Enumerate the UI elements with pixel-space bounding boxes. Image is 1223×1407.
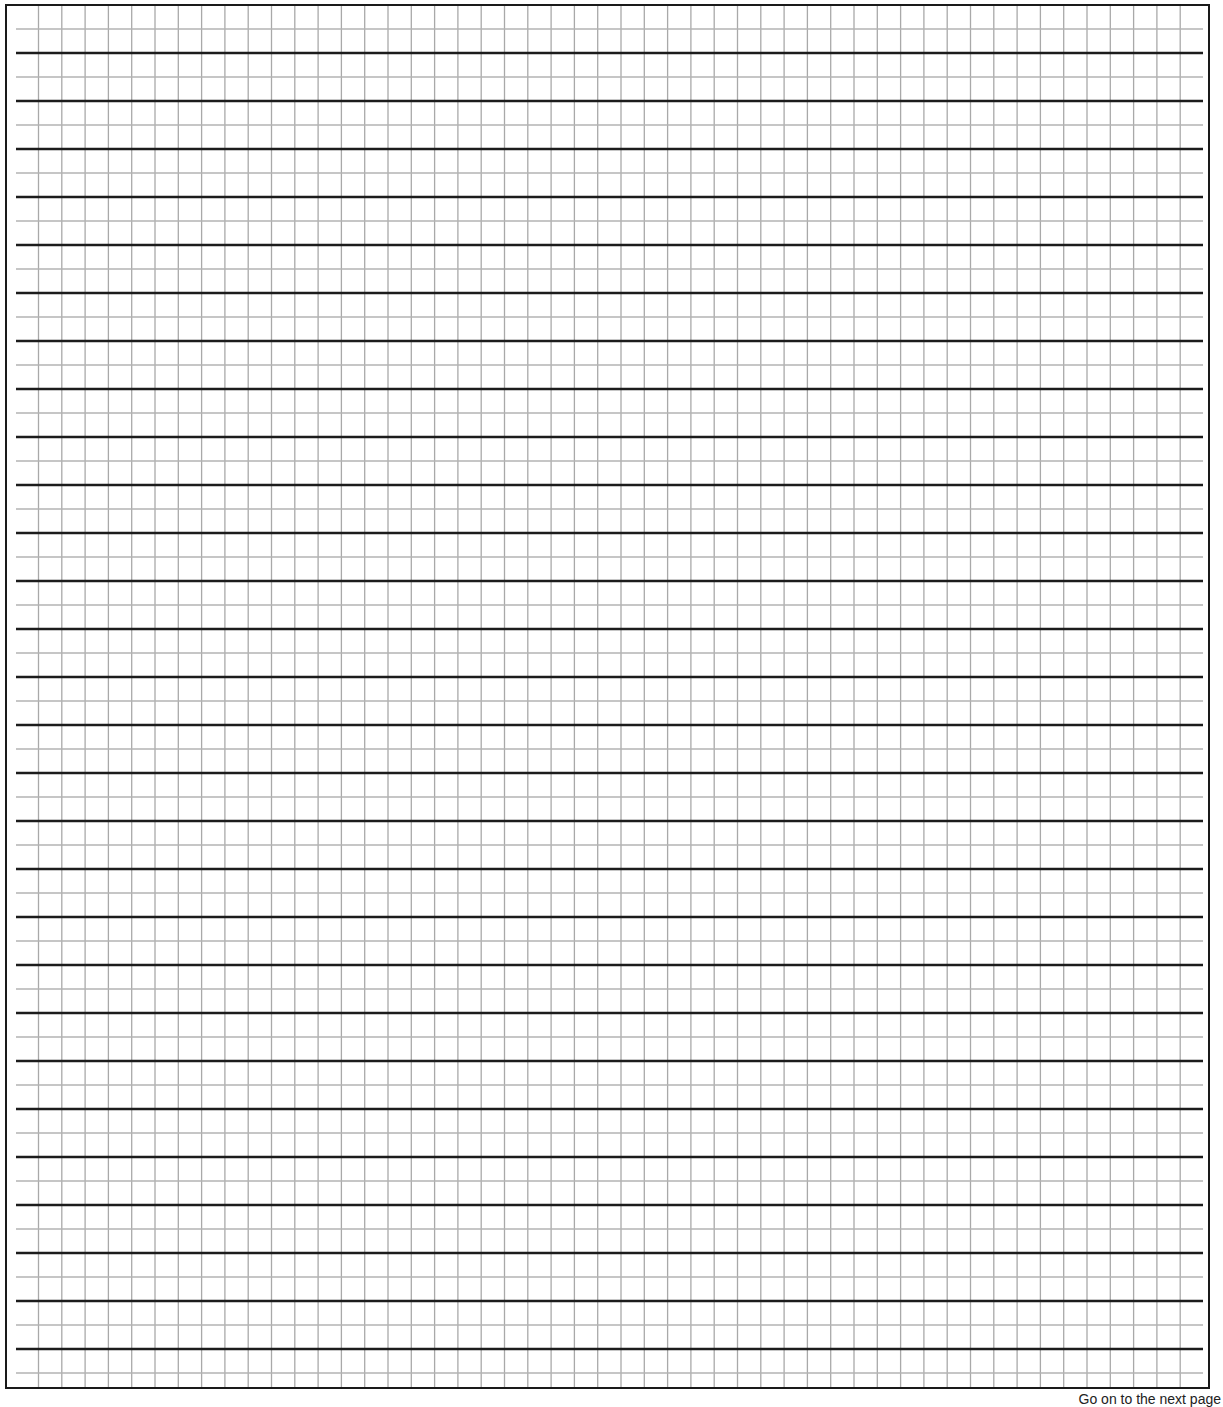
go-on-next-page-text: Go on to the next page (1079, 1391, 1221, 1407)
answer-area-border (5, 4, 1210, 1389)
